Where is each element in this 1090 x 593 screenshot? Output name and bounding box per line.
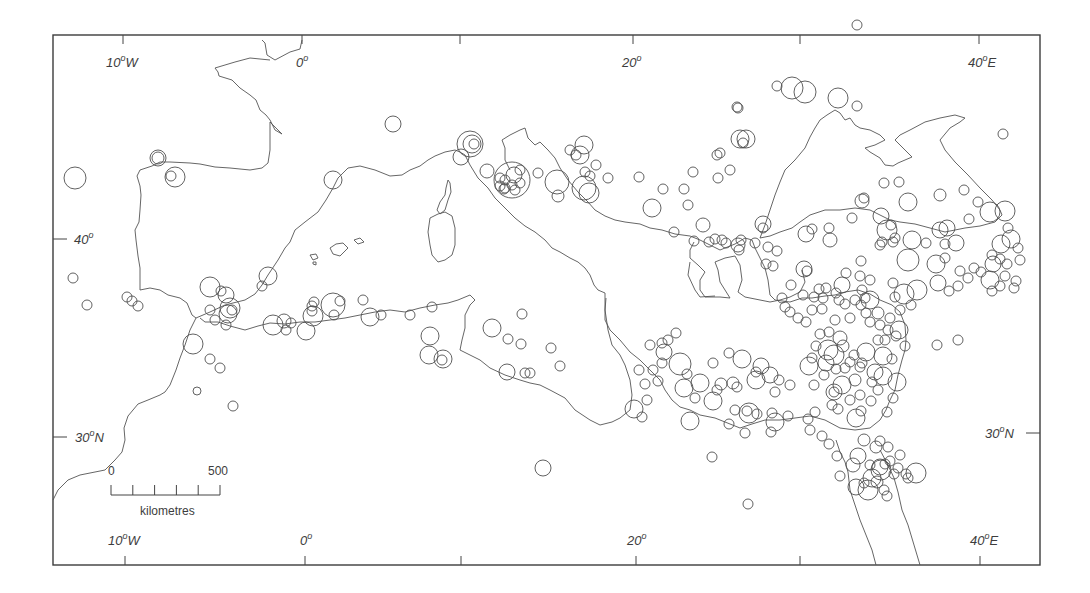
- site-circle: [591, 160, 601, 170]
- site-circle: [259, 267, 277, 285]
- site-circle: [68, 273, 78, 283]
- site-circle: [879, 178, 889, 188]
- site-circle: [427, 302, 437, 312]
- islands: [310, 180, 455, 265]
- site-circle: [1015, 255, 1025, 265]
- scale-start-label: 0: [108, 464, 115, 478]
- site-circle: [855, 362, 865, 372]
- site-circle: [690, 393, 700, 403]
- site-circle: [811, 341, 821, 351]
- site-circle: [814, 284, 824, 294]
- site-circle: [890, 292, 900, 302]
- site-circle: [750, 238, 760, 248]
- site-circle: [405, 310, 415, 320]
- site-circle: [774, 375, 784, 385]
- site-circle: [932, 340, 942, 350]
- site-circle: [645, 340, 655, 350]
- label-left-40: 40o: [74, 230, 93, 247]
- site-circle: [907, 280, 927, 300]
- site-circle: [930, 275, 946, 291]
- site-circle: [815, 329, 825, 339]
- site-circle: [830, 315, 840, 325]
- site-circle: [834, 277, 850, 293]
- site-circle: [903, 473, 913, 483]
- site-circle: [824, 327, 834, 337]
- site-circle: [828, 88, 848, 108]
- site-circle: [546, 343, 556, 353]
- site-circle: [227, 305, 237, 315]
- site-circle: [82, 300, 92, 310]
- site-circle: [309, 297, 319, 307]
- label-bottom-0: 0o: [300, 531, 312, 548]
- site-circle: [707, 452, 717, 462]
- site-circle: [1003, 223, 1013, 233]
- site-circle: [894, 284, 914, 304]
- site-circle: [712, 150, 722, 160]
- site-circle: [987, 250, 997, 260]
- site-circle: [733, 350, 751, 368]
- site-circles: [64, 20, 1025, 509]
- site-circle: [763, 242, 773, 252]
- site-circle: [704, 392, 722, 410]
- site-circle: [571, 150, 581, 160]
- label-bottom-20: 20o: [626, 531, 646, 548]
- site-circle: [658, 184, 668, 194]
- site-circle: [870, 441, 882, 453]
- site-circle: [826, 384, 842, 400]
- site-circle: [663, 335, 673, 345]
- site-circle: [64, 167, 86, 189]
- label-bottom-40e: 40oE: [970, 531, 998, 548]
- site-circle: [858, 434, 870, 446]
- site-circle: [437, 355, 447, 365]
- site-circle: [772, 246, 782, 256]
- site-circle: [1002, 230, 1020, 248]
- site-circle: [852, 20, 862, 30]
- site-circle: [772, 81, 782, 91]
- site-circle: [944, 286, 954, 296]
- site-circle: [725, 165, 735, 175]
- top-ticks: [123, 35, 979, 44]
- site-circle: [903, 231, 921, 249]
- site-circle: [852, 101, 862, 111]
- site-circle: [810, 407, 820, 417]
- site-circle: [634, 172, 644, 182]
- site-circle: [953, 335, 963, 345]
- site-circle: [358, 295, 368, 305]
- site-circle: [801, 317, 811, 327]
- site-circle: [263, 315, 283, 335]
- site-circle: [850, 295, 860, 305]
- site-circle: [210, 315, 220, 325]
- site-circle: [643, 199, 661, 217]
- site-circle: [133, 301, 143, 311]
- site-circle: [603, 173, 613, 183]
- site-circle: [713, 173, 723, 183]
- site-circle: [165, 167, 185, 187]
- site-circle: [886, 220, 896, 230]
- site-circle: [847, 213, 857, 223]
- bottom-ticks: [125, 556, 980, 565]
- site-circle: [533, 168, 543, 178]
- site-circle: [715, 148, 725, 158]
- site-circle: [963, 273, 973, 283]
- label-top-0: 0o: [296, 53, 308, 70]
- site-circle: [193, 387, 201, 395]
- site-circle: [895, 450, 905, 460]
- site-circle: [671, 328, 681, 338]
- site-circle: [679, 184, 689, 194]
- site-circle: [840, 363, 850, 373]
- site-circle: [802, 266, 812, 276]
- site-circle: [879, 485, 889, 495]
- site-circle: [807, 353, 817, 363]
- site-circle: [688, 167, 698, 177]
- site-circle: [995, 201, 1015, 221]
- site-circle: [469, 139, 479, 149]
- site-circle: [823, 233, 837, 247]
- site-circle: [807, 305, 817, 315]
- site-circle: [832, 451, 842, 461]
- site-circle: [625, 400, 643, 418]
- site-circle: [642, 395, 652, 405]
- site-circle: [998, 129, 1008, 139]
- site-circle: [897, 249, 919, 271]
- site-circle: [948, 235, 964, 251]
- site-circle: [872, 307, 884, 319]
